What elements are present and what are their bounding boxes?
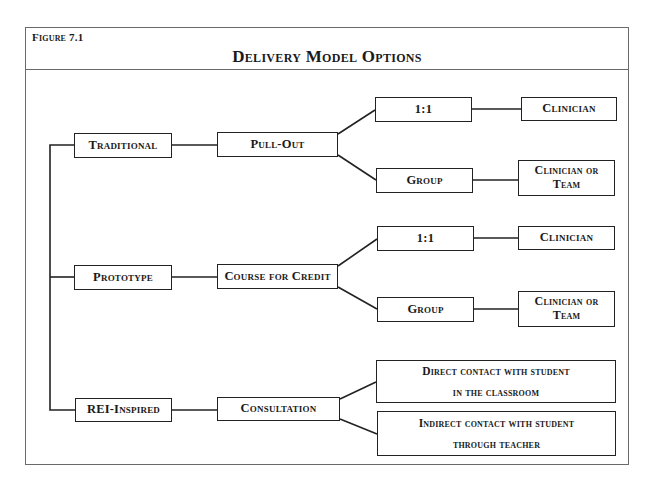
node-label-line2: Team [553,309,580,323]
node-course-group: Group [377,297,474,322]
node-label-line2: in the classroom [453,382,539,402]
node-label: REI-Inspired [87,402,160,418]
node-label: Course for Credit [224,269,330,285]
node-indirect-contact: Indirect contact with studentthrough tea… [377,411,616,456]
node-label-line2: through teacher [453,434,540,454]
node-label-line1: Indirect contact with student [419,413,575,433]
node-pull-out-one-to-one: 1:1 [375,97,472,122]
node-label-line1: Clinician or [535,164,599,178]
node-label: Consultation [241,401,317,417]
node-label-line1: Direct contact with student [422,361,570,381]
node-label: Pull-Out [250,137,304,153]
node-label: 1:1 [415,102,432,118]
node-label-line1: Clinician or [535,295,599,309]
node-label: Traditional [88,138,157,154]
node-course-for-credit: Course for Credit [217,264,338,289]
node-direct-contact: Direct contact with studentin the classr… [376,360,616,403]
node-prototype: Prototype [74,265,172,290]
node-pull-out-clinician-or-team: Clinician orTeam [518,160,615,196]
node-course-clinician: Clinician [518,226,615,250]
node-pull-out: Pull-Out [217,132,338,157]
node-course-one-to-one: 1:1 [377,226,474,251]
node-label: 1:1 [417,231,434,247]
node-traditional: Traditional [74,133,172,158]
node-rei-inspired: REI-Inspired [75,398,172,422]
node-label-line2: Team [553,178,580,192]
node-label: Clinician [542,101,595,117]
node-consultation: Consultation [217,397,340,421]
node-label: Group [406,173,442,189]
node-label: Prototype [93,270,153,286]
node-pull-out-group: Group [376,168,473,193]
node-pull-out-clinician: Clinician [521,97,617,121]
node-course-clinician-or-team: Clinician orTeam [518,291,615,327]
node-label: Group [407,302,443,318]
node-label: Clinician [540,230,593,246]
